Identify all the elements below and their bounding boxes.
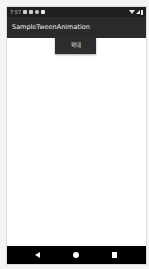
status-bar: 7:57 [7, 7, 146, 17]
phone-screen: 7:57 SampleTweenAnimation 확대 [7, 7, 146, 264]
recents-icon[interactable] [112, 252, 117, 258]
battery-icon [141, 10, 143, 15]
status-time: 7:57 [10, 7, 21, 17]
signal-icon [136, 10, 140, 14]
navigation-bar [7, 246, 146, 264]
notification-icon [23, 10, 27, 14]
zoom-in-button[interactable]: 확대 [55, 36, 96, 54]
notification-icon [29, 10, 33, 14]
home-icon[interactable] [73, 252, 79, 258]
main-content [7, 38, 146, 246]
wifi-icon [129, 10, 135, 14]
app-title: SampleTweenAnimation [12, 17, 90, 38]
settings-icon [35, 10, 39, 14]
back-icon[interactable] [35, 252, 40, 258]
sd-card-icon [41, 10, 45, 14]
status-right [129, 7, 143, 17]
status-left: 7:57 [10, 7, 45, 17]
app-bar: SampleTweenAnimation [7, 17, 146, 38]
